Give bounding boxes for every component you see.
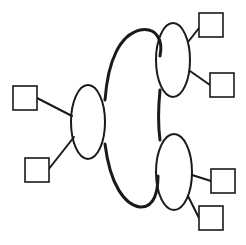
top-right-node-2 <box>210 73 234 97</box>
bottom-right-node-1 <box>211 169 235 193</box>
top-right-lobe <box>156 23 190 97</box>
cloud-outline-right-seam <box>159 90 161 140</box>
connector-top-right-1 <box>188 28 199 42</box>
connector-top-right-2 <box>190 71 210 85</box>
network-cloud-diagram <box>0 0 246 245</box>
left-node-2 <box>25 158 49 182</box>
left-node-1 <box>13 86 37 110</box>
left-lobe <box>71 85 105 159</box>
bottom-right-lobe <box>156 134 192 210</box>
bottom-right-node-2 <box>199 206 223 230</box>
top-right-node-1 <box>199 13 223 37</box>
cloud-outline-top <box>105 30 161 100</box>
connector-left-1 <box>37 98 72 116</box>
connector-left-2 <box>48 137 74 170</box>
connector-bottom-right-2 <box>188 196 199 218</box>
connector-bottom-right-1 <box>192 175 211 181</box>
cloud-outline-bottom <box>105 144 158 207</box>
